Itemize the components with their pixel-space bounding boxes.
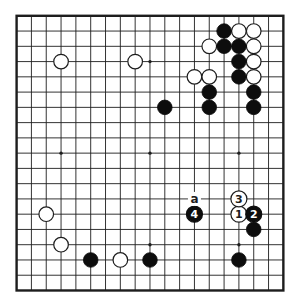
black-stone <box>246 100 261 115</box>
white-stone <box>54 237 69 252</box>
white-stone <box>202 39 217 54</box>
white-stone <box>202 70 217 85</box>
star-point <box>237 243 240 246</box>
star-point <box>148 243 151 246</box>
move-number-3: 3 <box>235 193 243 206</box>
go-board-svg: 1234a <box>0 0 301 304</box>
point-label-a: a <box>190 192 198 206</box>
black-stone <box>83 253 98 268</box>
black-stone <box>232 54 247 69</box>
white-stone <box>128 54 143 69</box>
black-stone <box>246 222 261 237</box>
white-stone <box>187 70 202 85</box>
white-stone <box>246 70 261 85</box>
white-stone <box>246 54 261 69</box>
move-number-2: 2 <box>250 208 258 221</box>
star-point <box>148 151 151 154</box>
white-stone <box>39 207 54 222</box>
black-stone <box>143 253 158 268</box>
white-stone <box>246 39 261 54</box>
black-stone <box>158 100 173 115</box>
black-stone <box>217 39 232 54</box>
go-diagram: 1234a <box>0 0 301 304</box>
black-stone <box>202 85 217 100</box>
black-stone <box>232 39 247 54</box>
move-number-1: 1 <box>235 208 243 221</box>
black-stone <box>202 100 217 115</box>
black-stone <box>217 24 232 39</box>
white-stone <box>113 253 128 268</box>
white-stone <box>232 24 247 39</box>
black-stone <box>246 85 261 100</box>
star-point <box>148 60 151 63</box>
move-number-4: 4 <box>191 208 199 221</box>
white-stone <box>54 54 69 69</box>
star-point <box>237 151 240 154</box>
black-stone <box>232 70 247 85</box>
black-stone <box>232 253 247 268</box>
white-stone <box>246 24 261 39</box>
star-point <box>59 151 62 154</box>
